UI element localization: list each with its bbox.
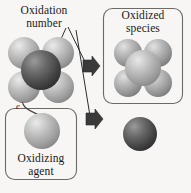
reduced-species-molecule (8, 37, 74, 103)
oxidation-number-label: Oxidation number (8, 4, 80, 30)
electron-label: e− (16, 100, 28, 111)
oxidized-species-label: Oxidized species (108, 9, 178, 35)
central-atom-sphere (21, 50, 61, 90)
oxidation-reduction-figure: Oxidation number Oxidized species Oxidiz… (0, 0, 191, 193)
leader-line-to-lower-arrow (76, 30, 90, 116)
reaction-arrow-lower (86, 109, 103, 129)
oxidizing-agent-sphere (24, 113, 60, 149)
reaction-arrow-upper (83, 56, 100, 76)
reduced-agent-sphere (123, 117, 157, 151)
electron-charge-superscript: − (20, 99, 24, 107)
oxidizing-agent-label: Oxidizing agent (9, 152, 73, 178)
central-atom-sphere (125, 50, 161, 86)
oxidized-species-molecule (114, 39, 172, 97)
